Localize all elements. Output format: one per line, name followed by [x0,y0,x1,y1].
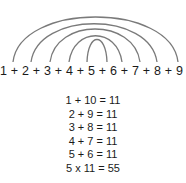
equation-pair-1: 1 + 10 = 11 [0,94,186,108]
equation-total: 5 x 11 = 55 [0,162,186,176]
equation-pair-5: 5 + 6 = 11 [0,148,186,162]
arc-5-6 [87,40,107,63]
arc-3-8 [50,29,140,62]
number-sequence: 1 + 2 + 3 + 4 + 5 + 6 + 7 + 8 + 9 + 10 [0,64,186,78]
equation-pair-4: 4 + 7 = 11 [0,135,186,149]
equation-list: 1 + 10 = 11 2 + 9 = 11 3 + 8 = 11 4 + 7 … [0,94,186,175]
pairing-arcs [0,0,186,66]
equation-pair-2: 2 + 9 = 11 [0,108,186,122]
equation-pair-3: 3 + 8 = 11 [0,121,186,135]
